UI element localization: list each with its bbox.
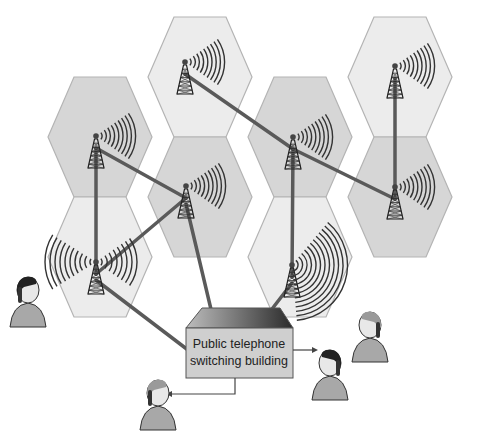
person-icon	[10, 277, 46, 327]
person-icon	[312, 350, 348, 400]
link-line	[292, 149, 293, 277]
cellular-network-diagram: Public telephone switching building	[0, 0, 489, 431]
person-icon	[352, 312, 388, 362]
cell-top-center	[148, 17, 252, 137]
cell-mid-left	[48, 77, 152, 197]
building-label-line1: Public telephone	[193, 336, 285, 353]
cell-center	[148, 137, 252, 257]
person-icon	[140, 380, 176, 430]
cell-mid-right	[248, 77, 352, 197]
building-label-line2: switching building	[190, 353, 288, 370]
switching-building-label: Public telephone switching building	[186, 328, 292, 378]
cell-top-right	[348, 17, 452, 137]
cell-right	[348, 137, 452, 257]
